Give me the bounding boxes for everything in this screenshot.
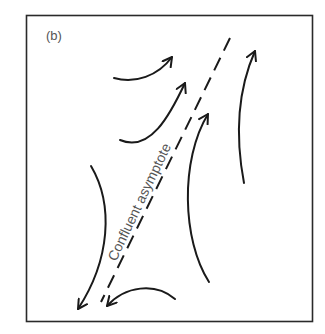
far-right-arrow: [239, 51, 255, 183]
panel-label: (b): [46, 28, 62, 43]
lower-left-arrow: [78, 166, 106, 309]
upper-left-arrow: [114, 57, 172, 80]
streamline-diagram: (b) Confluent asymptote: [0, 0, 325, 334]
center-right-arrow: [188, 114, 209, 282]
confluent-asymptote-line: [101, 38, 230, 302]
confluent-asymptote-label: Confluent asymptote: [104, 140, 174, 263]
middle-left-arrow: [120, 83, 185, 143]
bottom-arrow: [107, 288, 175, 306]
